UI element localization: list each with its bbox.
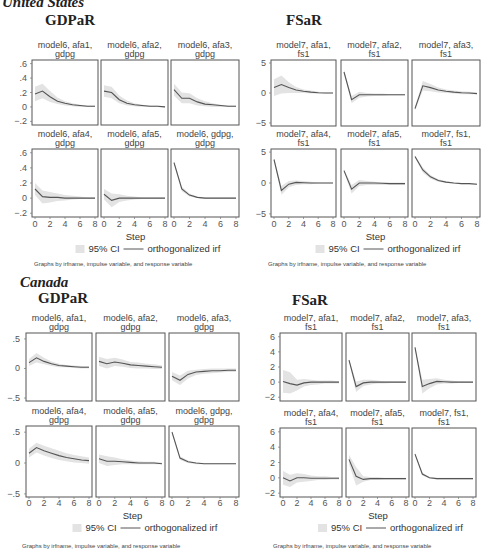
y-tick-label: 4 bbox=[270, 347, 275, 357]
irf-panel: model7, afa4,fs1−2024602468 bbox=[265, 408, 342, 508]
panel-title: fs1 bbox=[438, 322, 450, 332]
x-tick-label: 8 bbox=[402, 219, 407, 229]
x-tick-label: 0 bbox=[412, 219, 417, 229]
panel-title: fs1 bbox=[297, 49, 309, 59]
panel-title: gdpg bbox=[49, 415, 69, 425]
legend: 95% CIorthogonalized irf bbox=[318, 522, 463, 533]
legend-ci-label: 95% CI bbox=[329, 243, 360, 254]
x-tick-label: 6 bbox=[322, 498, 327, 508]
x-tick-label: 8 bbox=[92, 219, 97, 229]
y-tick-label: .4 bbox=[19, 73, 27, 83]
x-axis-label: Step bbox=[123, 510, 143, 521]
x-tick-label: 2 bbox=[112, 498, 117, 508]
y-tick-label: .5 bbox=[12, 427, 20, 437]
y-tick-label: −2 bbox=[265, 392, 275, 402]
x-tick-label: 2 bbox=[286, 219, 291, 229]
x-tick-label: 2 bbox=[357, 219, 362, 229]
x-tick-label: 4 bbox=[308, 498, 313, 508]
x-tick-label: 2 bbox=[428, 219, 433, 229]
graph-note: Graphs by irfname, impulse variable, and… bbox=[273, 543, 432, 549]
y-tick-label: 0 bbox=[270, 473, 275, 483]
y-tick-label: −.2 bbox=[14, 116, 27, 126]
x-tick-label: 0 bbox=[101, 219, 106, 229]
ci-band bbox=[415, 81, 477, 110]
legend-ci-label: 95% CI bbox=[89, 243, 120, 254]
irf-panel: model6, afa3,gdpg bbox=[171, 40, 239, 125]
irf-panel: model7, afa1,fs1−505 bbox=[256, 40, 336, 128]
x-tick-label: 4 bbox=[372, 219, 377, 229]
irf-line bbox=[172, 432, 236, 464]
x-axis-label: Step bbox=[368, 510, 388, 521]
irf-line bbox=[415, 454, 473, 479]
x-tick-label: 4 bbox=[128, 498, 133, 508]
y-tick-label: 5 bbox=[261, 147, 266, 157]
x-tick-label: 4 bbox=[301, 219, 306, 229]
irf-panel: model7, afa5,fs102468 bbox=[341, 129, 408, 229]
y-tick-label: 2 bbox=[270, 362, 275, 372]
panel-title: gdpg bbox=[124, 49, 144, 59]
irf-panel: model6, gdpg,gdpg02468 bbox=[171, 129, 239, 229]
x-tick-label: 8 bbox=[336, 498, 341, 508]
x-tick-label: 2 bbox=[361, 498, 366, 508]
legend-ci-label: 95% CI bbox=[86, 522, 117, 533]
chart-us-fsar: model7, afa1,fs1−505model7, afa2,fs1mode… bbox=[256, 40, 480, 267]
panel-frame bbox=[346, 333, 409, 401]
x-tick-label: 8 bbox=[330, 219, 335, 229]
panel-title: fs1 bbox=[297, 138, 309, 148]
panel-title: gdpg bbox=[195, 49, 215, 59]
irf-panel: model6, afa4,gdpg−.50.502468 bbox=[7, 406, 92, 508]
legend-ci-swatch bbox=[316, 245, 325, 253]
irf-panel: model7, afa3,fs1 bbox=[412, 40, 480, 126]
x-tick-label: 4 bbox=[62, 219, 67, 229]
irf-panel: model6, gdpg,gdpg02468 bbox=[169, 406, 239, 508]
panel-title: gdpg bbox=[120, 415, 140, 425]
graph-note: Graphs by irfname, impulse variable, and… bbox=[34, 261, 193, 267]
x-tick-label: 8 bbox=[159, 498, 164, 508]
x-tick-label: 4 bbox=[441, 498, 446, 508]
irf-panel: model7, fs1,fs102468 bbox=[412, 408, 476, 508]
x-tick-label: 2 bbox=[185, 498, 190, 508]
y-tick-label: 5 bbox=[261, 58, 266, 68]
x-tick-label: 8 bbox=[474, 219, 479, 229]
irf-panel: model6, afa5,gdpg02468 bbox=[101, 129, 168, 229]
x-tick-label: 6 bbox=[77, 219, 82, 229]
legend-irf-label: orthogonalized irf bbox=[388, 243, 461, 254]
panel-frame bbox=[171, 149, 239, 217]
panel-title: fs1 bbox=[371, 322, 383, 332]
ci-band bbox=[415, 453, 473, 480]
y-tick-label: 4 bbox=[270, 442, 275, 452]
chart-ca-gdpar: model6, afa1,gdpg−.50.5model6, afa2,gdpg… bbox=[7, 313, 239, 549]
panel-title: fs1 bbox=[368, 138, 380, 148]
panel-title: gdpg bbox=[124, 138, 144, 148]
legend-irf-label: orthogonalized irf bbox=[390, 522, 463, 533]
x-tick-label: 6 bbox=[71, 498, 76, 508]
x-tick-label: 2 bbox=[117, 219, 122, 229]
y-tick-label: 0 bbox=[261, 178, 266, 188]
x-tick-label: 4 bbox=[202, 219, 207, 229]
y-tick-label: 2 bbox=[270, 458, 275, 468]
x-tick-label: 8 bbox=[470, 498, 475, 508]
irf-panel: model6, afa1,gdpg−.20.2.4.6 bbox=[14, 40, 98, 126]
x-tick-label: 6 bbox=[144, 498, 149, 508]
y-tick-label: .2 bbox=[19, 178, 27, 188]
x-tick-label: 6 bbox=[387, 219, 392, 229]
legend: 95% CIorthogonalized irf bbox=[316, 243, 461, 254]
y-tick-label: −5 bbox=[256, 118, 266, 128]
panel-title: gdpg bbox=[195, 138, 215, 148]
legend-ci-swatch bbox=[318, 524, 327, 532]
panel-title: gdpg bbox=[194, 415, 214, 425]
irf-panel: model6, afa2,gdpg bbox=[101, 40, 168, 125]
x-tick-label: 0 bbox=[341, 219, 346, 229]
x-tick-label: 6 bbox=[147, 219, 152, 229]
x-tick-label: 4 bbox=[132, 219, 137, 229]
irf-panel: model6, afa4,gdpg−.20.2.4.602468 bbox=[14, 129, 98, 229]
irf-line bbox=[174, 163, 236, 199]
panel-title: gdpg bbox=[55, 49, 75, 59]
x-tick-label: 0 bbox=[169, 498, 174, 508]
ci-band bbox=[174, 84, 236, 107]
panel-title: fs1 bbox=[371, 417, 383, 427]
irf-panel: model6, afa2,gdpg bbox=[96, 313, 165, 401]
y-tick-label: 0 bbox=[22, 193, 27, 203]
x-tick-label: 6 bbox=[218, 219, 223, 229]
y-tick-label: −.5 bbox=[7, 489, 20, 499]
